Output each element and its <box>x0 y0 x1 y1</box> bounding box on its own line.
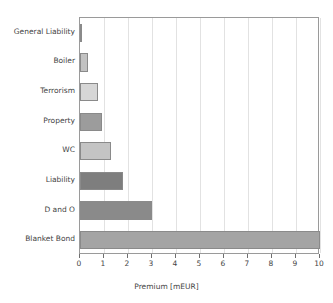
bar-chart: General LiabilityBoilerTerrorismProperty… <box>0 0 333 303</box>
bar-property <box>80 113 102 131</box>
y-axis-label: Terrorism <box>40 87 75 95</box>
bar-liability <box>80 172 123 190</box>
x-tick-label: 5 <box>189 259 209 268</box>
x-tick <box>79 254 80 258</box>
x-tick-label: 4 <box>165 259 185 268</box>
bar-general-liability <box>80 24 82 42</box>
bars-layer <box>80 18 318 253</box>
x-tick-label: 9 <box>285 259 305 268</box>
x-tick <box>295 254 296 258</box>
y-axis-label: D and O <box>44 206 75 214</box>
bar-d-and-o <box>80 201 152 219</box>
bar-wc <box>80 142 111 160</box>
y-axis-label: WC <box>62 146 75 154</box>
y-axis-label: Property <box>43 117 75 125</box>
bar-boiler <box>80 53 88 71</box>
x-tick <box>247 254 248 258</box>
x-tick-label: 3 <box>141 259 161 268</box>
bar-blanket-bond <box>80 231 320 249</box>
y-axis-label: Liability <box>46 176 75 184</box>
y-axis-label: Boiler <box>53 57 75 65</box>
x-axis-title: Premium [mEUR] <box>0 282 333 291</box>
x-tick-label: 6 <box>213 259 233 268</box>
bar-terrorism <box>80 83 98 101</box>
x-tick-label: 0 <box>69 259 89 268</box>
x-tick <box>103 254 104 258</box>
x-tick <box>127 254 128 258</box>
x-tick-label: 10 <box>309 259 329 268</box>
y-axis-label: Blanket Bond <box>25 235 75 243</box>
y-axis-labels: General LiabilityBoilerTerrorismProperty… <box>0 17 75 254</box>
x-tick <box>223 254 224 258</box>
x-tick <box>151 254 152 258</box>
x-tick-label: 1 <box>93 259 113 268</box>
x-tick-label: 7 <box>237 259 257 268</box>
x-tick-label: 2 <box>117 259 137 268</box>
gridline <box>320 18 321 253</box>
x-axis: 012345678910 <box>79 254 319 268</box>
x-tick-label: 8 <box>261 259 281 268</box>
x-tick <box>319 254 320 258</box>
x-tick <box>271 254 272 258</box>
y-axis-label: General Liability <box>14 28 75 36</box>
plot-area <box>79 17 319 254</box>
x-tick <box>175 254 176 258</box>
x-tick <box>199 254 200 258</box>
